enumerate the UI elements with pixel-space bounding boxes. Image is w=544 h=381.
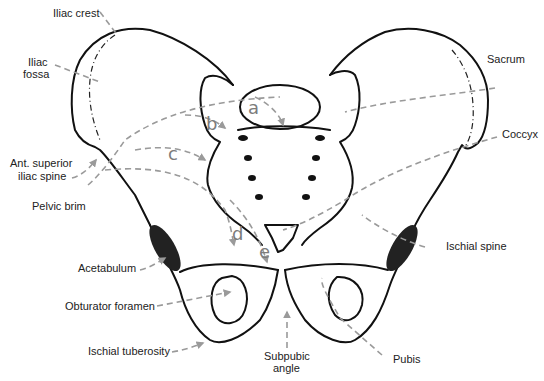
label-ant-sup-iliac-spine-2: iliac spine	[18, 170, 66, 182]
label-subpubic-angle-1: Subpubic	[264, 350, 310, 362]
label-ischial-spine: Ischial spine	[446, 240, 507, 252]
label-ant-sup-iliac-spine-1: Ant. superior	[10, 157, 73, 169]
letter-b: b	[206, 113, 217, 134]
letter-d: d	[232, 223, 243, 244]
label-iliac-fossa-1: Iliac	[28, 56, 48, 68]
sacrum	[200, 71, 359, 252]
label-obturator-foramen: Obturator foramen	[65, 300, 155, 312]
pelvis-diagram: a b c d e Iliac crest Iliac fossa Ant. s…	[0, 0, 544, 381]
label-subpubic-angle-2: angle	[273, 362, 300, 374]
text-labels: Iliac crest Iliac fossa Ant. superior il…	[10, 7, 539, 374]
label-pelvic-brim: Pelvic brim	[32, 200, 86, 212]
label-ischial-tuberosity: Ischial tuberosity	[88, 345, 170, 357]
label-sacrum: Sacrum	[487, 53, 525, 65]
sacral-foramina	[238, 135, 325, 200]
letter-a: a	[248, 97, 259, 118]
right-acetabulum	[380, 220, 423, 275]
letter-c: c	[168, 143, 178, 164]
label-iliac-fossa-2: fossa	[23, 68, 50, 80]
label-iliac-crest: Iliac crest	[53, 7, 99, 19]
label-coccyx: Coccyx	[502, 128, 539, 140]
letter-e: e	[259, 241, 270, 262]
label-pubis: Pubis	[393, 353, 421, 365]
label-acetabulum: Acetabulum	[78, 262, 136, 274]
